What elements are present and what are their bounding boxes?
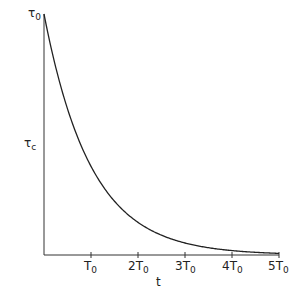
tick-label-4: 4T0 xyxy=(222,259,243,275)
plot-area xyxy=(0,0,298,294)
tick-label-2: 2T0 xyxy=(128,259,149,275)
chart: τ0 τc t T0 2T0 3T0 4T0 5T0 xyxy=(0,0,298,294)
y-top-label: τ0 xyxy=(28,6,41,22)
x-axis-label: t xyxy=(156,275,161,289)
tick-label-5: 5T0 xyxy=(268,259,289,275)
decay-curve xyxy=(44,14,279,253)
y-axis-label: τc xyxy=(24,136,36,152)
tick-label-3: 3T0 xyxy=(175,259,196,275)
tick-label-1: T0 xyxy=(84,259,97,275)
